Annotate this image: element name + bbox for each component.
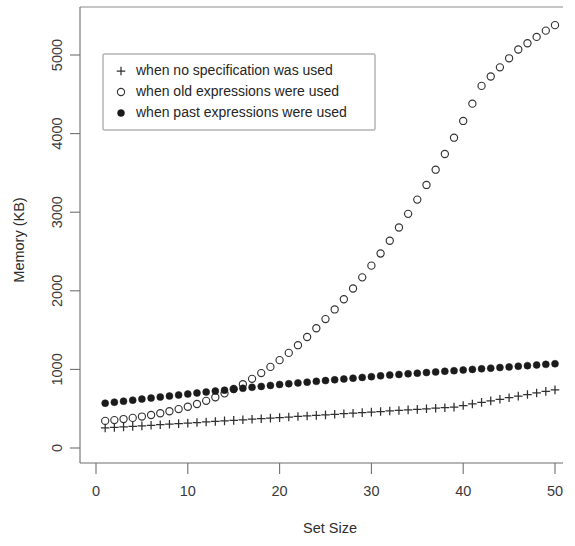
legend-label-2: when old expressions were used bbox=[135, 83, 339, 99]
data-point bbox=[395, 371, 402, 378]
data-point bbox=[496, 364, 503, 371]
data-point bbox=[551, 386, 560, 395]
data-point bbox=[542, 361, 549, 368]
data-point bbox=[221, 387, 228, 394]
y-axis-title: Memory (KB) bbox=[11, 197, 27, 282]
data-point bbox=[304, 379, 311, 386]
data-point bbox=[524, 362, 531, 369]
data-point bbox=[359, 274, 366, 281]
data-point bbox=[423, 181, 430, 188]
data-point bbox=[551, 22, 558, 29]
data-point bbox=[147, 411, 154, 418]
data-point bbox=[211, 417, 220, 426]
data-point bbox=[487, 365, 494, 372]
data-point bbox=[156, 420, 165, 429]
data-point bbox=[340, 409, 349, 418]
data-point bbox=[413, 405, 422, 414]
data-point bbox=[248, 375, 255, 382]
data-point bbox=[304, 333, 311, 340]
data-point bbox=[230, 386, 237, 393]
data-point bbox=[405, 210, 412, 217]
data-point bbox=[257, 414, 266, 423]
x-tick-label: 50 bbox=[547, 483, 563, 499]
data-point bbox=[110, 423, 119, 432]
x-axis-title: Set Size bbox=[303, 520, 357, 536]
data-point bbox=[138, 422, 147, 431]
data-point bbox=[340, 296, 347, 303]
data-point bbox=[459, 401, 468, 410]
data-point bbox=[376, 407, 385, 416]
data-point bbox=[358, 408, 367, 417]
data-point bbox=[157, 410, 164, 417]
data-point bbox=[340, 375, 347, 382]
y-axis: 010002000300040005000 bbox=[49, 39, 80, 452]
data-point bbox=[496, 64, 503, 71]
data-point bbox=[203, 389, 210, 396]
legend-entries: when no specification was usedwhen old e… bbox=[117, 62, 347, 120]
data-point bbox=[552, 360, 559, 367]
data-point bbox=[431, 404, 440, 413]
data-point bbox=[515, 363, 522, 370]
data-point bbox=[129, 397, 136, 404]
data-point bbox=[184, 403, 191, 410]
data-point bbox=[193, 418, 202, 427]
data-point bbox=[128, 422, 137, 431]
data-point bbox=[165, 420, 174, 429]
data-point bbox=[386, 372, 393, 379]
data-point bbox=[193, 389, 200, 396]
data-point bbox=[175, 392, 182, 399]
data-point bbox=[468, 400, 477, 409]
data-point bbox=[184, 391, 191, 398]
data-point bbox=[248, 415, 257, 424]
y-tick-label: 5000 bbox=[49, 39, 65, 71]
data-point bbox=[451, 367, 458, 374]
data-point bbox=[477, 398, 486, 407]
data-point bbox=[175, 405, 182, 412]
x-tick-label: 20 bbox=[272, 483, 288, 499]
data-point bbox=[359, 374, 366, 381]
data-point bbox=[239, 385, 246, 392]
data-point bbox=[102, 400, 109, 407]
data-point bbox=[432, 166, 439, 173]
data-point bbox=[423, 369, 430, 376]
scatter-plot: 010002000300040005000 01020304050 Memory… bbox=[0, 0, 575, 546]
data-point bbox=[138, 396, 145, 403]
data-point bbox=[258, 369, 265, 376]
data-point bbox=[321, 411, 330, 420]
data-point bbox=[441, 403, 450, 412]
data-point bbox=[275, 413, 284, 422]
data-point bbox=[303, 412, 312, 421]
data-point bbox=[120, 415, 127, 422]
data-point bbox=[220, 417, 229, 426]
x-axis: 01020304050 bbox=[92, 463, 563, 499]
data-point bbox=[184, 419, 193, 428]
data-point bbox=[432, 368, 439, 375]
data-point bbox=[506, 55, 513, 62]
data-point bbox=[294, 412, 303, 421]
data-point bbox=[460, 117, 467, 124]
data-point bbox=[414, 196, 421, 203]
data-point bbox=[496, 395, 505, 404]
data-point bbox=[542, 387, 551, 396]
data-point bbox=[313, 325, 320, 332]
data-point bbox=[395, 224, 402, 231]
data-point bbox=[405, 370, 412, 377]
data-point bbox=[469, 100, 476, 107]
data-point bbox=[147, 421, 156, 430]
legend-label-1: when no specification was used bbox=[135, 62, 333, 78]
data-point bbox=[368, 262, 375, 269]
data-point bbox=[450, 403, 459, 412]
data-point bbox=[276, 357, 283, 364]
data-point bbox=[312, 411, 321, 420]
data-point bbox=[239, 415, 248, 424]
data-point bbox=[138, 413, 145, 420]
data-point bbox=[229, 416, 238, 425]
data-point bbox=[202, 418, 211, 427]
x-tick-label: 30 bbox=[363, 483, 379, 499]
data-point bbox=[322, 315, 329, 322]
x-tick-label: 0 bbox=[92, 483, 100, 499]
data-point bbox=[331, 306, 338, 313]
data-point bbox=[478, 365, 485, 372]
data-point bbox=[487, 73, 494, 80]
data-point bbox=[285, 380, 292, 387]
